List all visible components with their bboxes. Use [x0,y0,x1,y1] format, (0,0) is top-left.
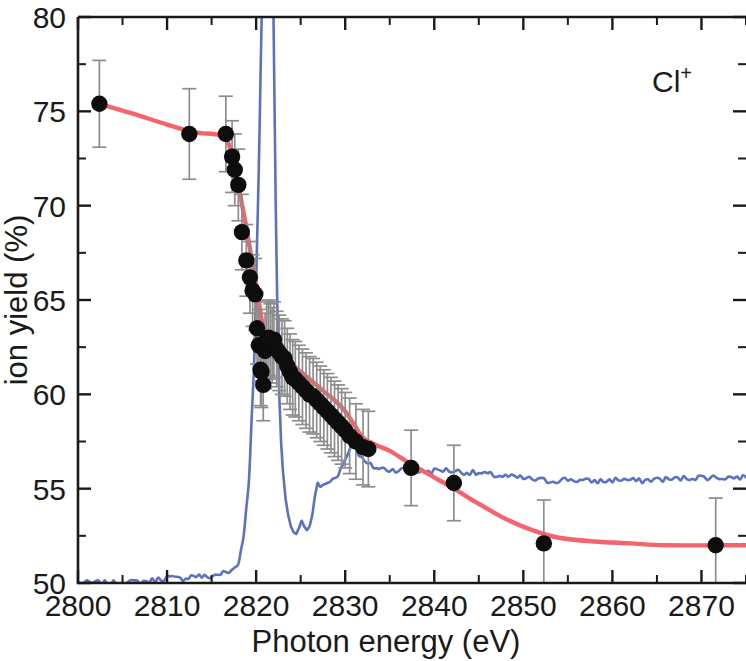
data-point [238,252,254,268]
x-axis-title: Photon energy (eV) [252,624,521,659]
ion-yield-chart: 28002810282028302840285028602870 5055606… [0,0,746,661]
x-tick-label: 2830 [312,589,379,622]
data-point [218,126,234,142]
data-point [446,475,462,491]
data-point [360,441,376,457]
chart-background [0,0,746,661]
y-tick-label: 55 [33,473,66,506]
x-tick-label: 2840 [401,589,468,622]
y-axis-title: ion yield (%) [0,215,34,386]
x-tick-label: 2860 [579,589,646,622]
y-tick-label: 60 [33,378,66,411]
y-tick-label: 75 [33,95,66,128]
y-tick-label: 50 [33,567,66,600]
data-point [536,535,552,551]
figure-container: 28002810282028302840285028602870 5055606… [0,0,746,661]
data-point [234,224,250,240]
data-point [708,537,724,553]
data-point [227,162,243,178]
data-point [247,286,263,302]
y-tick-label: 65 [33,284,66,317]
data-point [181,126,197,142]
y-tick-label: 80 [33,1,66,34]
x-tick-label: 2810 [134,589,201,622]
data-point [403,460,419,476]
y-tick-label: 70 [33,190,66,223]
x-tick-label: 2820 [223,589,290,622]
x-tick-label: 2850 [490,589,557,622]
data-point [91,96,107,112]
data-point [255,377,271,393]
x-tick-label: 2870 [668,589,735,622]
data-point [230,177,246,193]
